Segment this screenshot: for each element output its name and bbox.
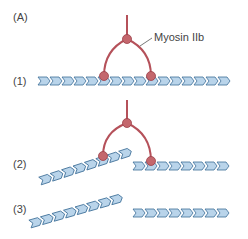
actin-filament-3b — [133, 209, 229, 217]
leader-line — [140, 38, 152, 46]
actin-filament-1 — [38, 77, 230, 85]
actin-filament-2a — [39, 148, 133, 185]
actin-filament-3a — [29, 194, 123, 228]
myosin-1 — [100, 15, 156, 81]
diagram-canvas — [0, 0, 248, 239]
